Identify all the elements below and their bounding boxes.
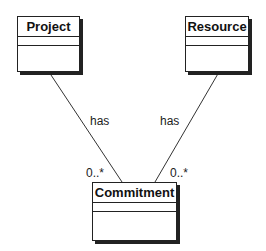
- resource-association-label: has: [160, 114, 179, 128]
- resource-attributes: [186, 37, 248, 46]
- project-association-label: has: [90, 114, 109, 128]
- project-class-name: Project: [18, 17, 79, 37]
- resource-class-box[interactable]: Resource: [185, 16, 249, 72]
- project-multiplicity: 0..*: [86, 166, 104, 180]
- commitment-class-name: Commitment: [93, 183, 176, 203]
- project-class-box[interactable]: Project: [17, 16, 80, 72]
- commitment-attributes: [93, 203, 176, 212]
- resource-multiplicity: 0..*: [170, 166, 188, 180]
- resource-class-name: Resource: [186, 17, 248, 37]
- project-attributes: [18, 37, 79, 46]
- commitment-class-box[interactable]: Commitment: [92, 182, 177, 241]
